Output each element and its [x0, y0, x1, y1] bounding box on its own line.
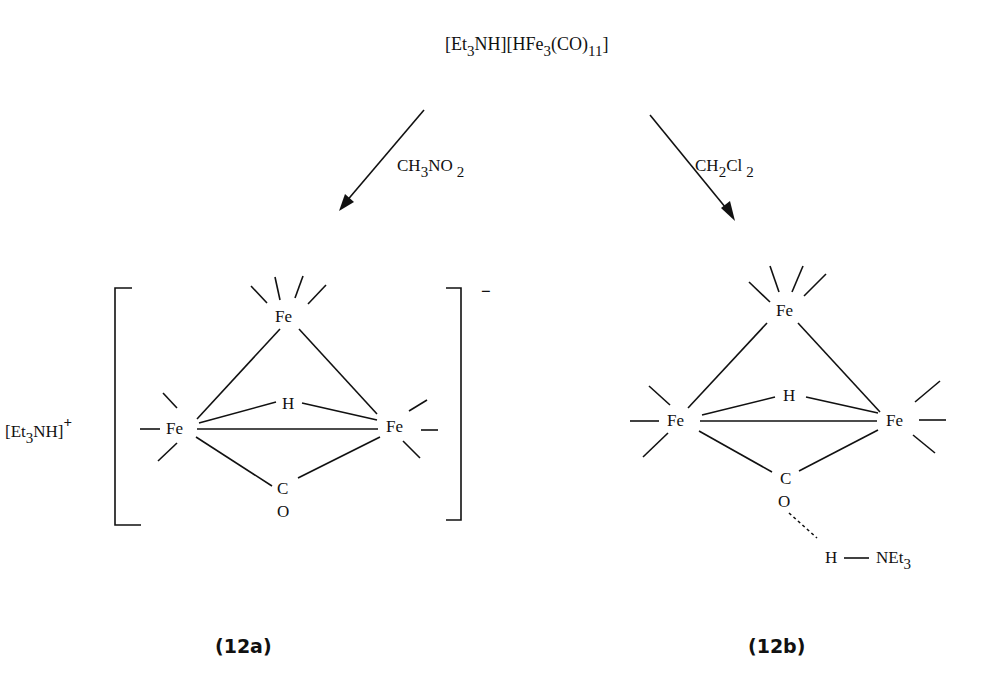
o-carbonyl-12a: O: [277, 503, 289, 520]
cation-12a: [Et3NH]+: [5, 422, 72, 440]
compound-label-12b: (12b): [748, 635, 805, 657]
c-carbonyl-12b: C: [780, 470, 791, 487]
c-carbonyl-12a: C: [277, 480, 288, 497]
anion-charge-12a: −: [481, 283, 491, 300]
compound-label-12a: (12a): [215, 635, 272, 657]
amine-12b: NEt3: [876, 549, 911, 566]
solvent-label-left: CH3NO2: [397, 157, 464, 174]
solvent-label-right: CH2Cl2: [695, 157, 754, 174]
h-bridge-12a: H: [282, 395, 294, 412]
bond-lines: [0, 0, 989, 695]
h-bridge-12b: H: [783, 387, 795, 404]
fe-left-12a: Fe: [166, 420, 183, 437]
fe-right-12a: Fe: [386, 418, 403, 435]
fe-left-12b: Fe: [667, 412, 684, 429]
fe-right-12b: Fe: [886, 412, 903, 429]
h-hbond-12b: H: [825, 549, 837, 566]
fe-top-12b: Fe: [776, 302, 793, 319]
o-carbonyl-12b: O: [778, 493, 790, 510]
reactant-formula: [Et3NH][HFe3(CO)11]: [445, 35, 608, 53]
fe-top-12a: Fe: [275, 308, 292, 325]
